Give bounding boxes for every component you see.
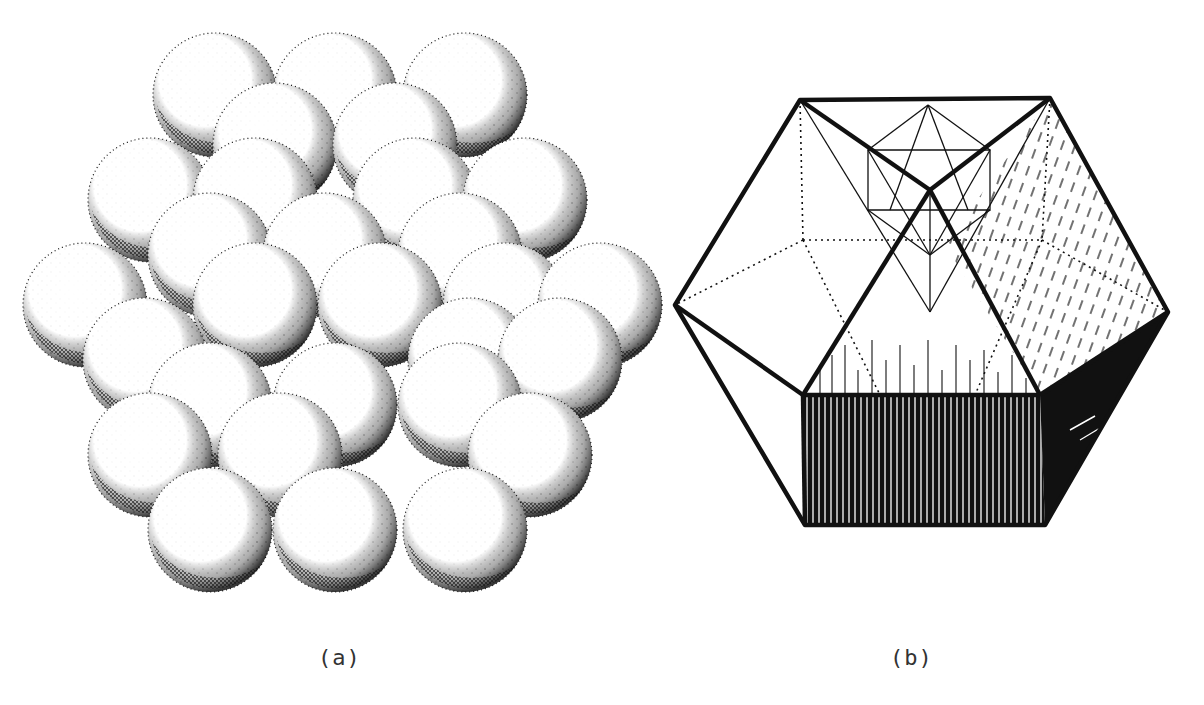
caption-b: (b)	[890, 645, 933, 670]
polyhedron-illustration	[0, 0, 1204, 705]
hatched-bottom-face	[803, 395, 1045, 525]
panel-b-polyhedron: (b)	[0, 0, 1204, 705]
hatch-strokes	[820, 340, 1026, 395]
